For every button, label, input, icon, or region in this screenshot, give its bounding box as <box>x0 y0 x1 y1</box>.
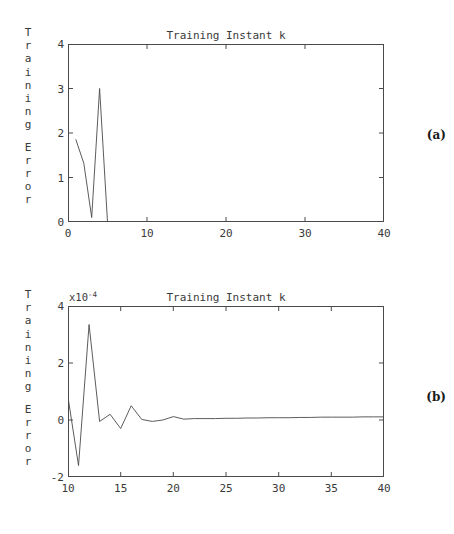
y-tick-label: 2 <box>57 357 64 370</box>
plot-area-a: Training Instant k 4 3 2 1 0 0 10 20 30 … <box>68 44 384 222</box>
ylabel-char: a <box>25 52 32 65</box>
ylabel-char: r <box>25 39 32 52</box>
chart-title-b: Training Instant k <box>68 291 384 304</box>
y-axis-label-b: T r a i n i n g E r r o r <box>18 288 38 469</box>
ylabel-char: i <box>25 66 32 79</box>
ylabel-char: g <box>25 118 32 131</box>
y-tick-label: 4 <box>57 300 64 313</box>
panel-label-a: (a) <box>427 128 446 142</box>
ylabel-char: r <box>25 429 32 442</box>
ylabel-char: g <box>25 380 32 393</box>
exponent-power: -4 <box>88 290 97 299</box>
data-series-line <box>68 325 384 466</box>
plot-svg-a <box>68 44 384 222</box>
x-tick-label: 10 <box>61 482 74 495</box>
ylabel-char: T <box>25 288 32 301</box>
ylabel-char: n <box>25 341 32 354</box>
ylabel-char: T <box>25 26 32 39</box>
x-tick-label: 0 <box>65 227 72 240</box>
ylabel-char: n <box>25 367 32 380</box>
chart-title-a: Training Instant k <box>68 29 384 42</box>
ylabel-char: i <box>25 328 32 341</box>
ylabel-char: E <box>25 403 32 416</box>
plot-area-b: Training Instant k x10-4 4 2 0 -2 10 15 … <box>68 306 384 477</box>
ylabel-char: n <box>25 79 32 92</box>
ylabel-char: r <box>25 154 32 167</box>
ylabel-char: r <box>25 193 32 206</box>
figure-b: T r a i n i n g E r r o r Training Insta… <box>0 262 454 534</box>
axis-box <box>69 45 384 222</box>
y-tick-label: 2 <box>57 127 64 140</box>
ylabel-char: a <box>25 314 32 327</box>
x-tick-marks <box>147 44 305 222</box>
ylabel-char: r <box>25 455 32 468</box>
x-tick-label: 30 <box>272 482 285 495</box>
figure-a: T r a i n i n g E r r o r Training Insta… <box>0 0 454 262</box>
x-tick-label: 20 <box>167 482 180 495</box>
ylabel-char: o <box>25 180 32 193</box>
y-tick-marks <box>68 363 384 420</box>
ylabel-char: r <box>25 301 32 314</box>
x-tick-label: 10 <box>140 227 153 240</box>
x-tick-label: 30 <box>298 227 311 240</box>
y-tick-label: 0 <box>57 216 64 229</box>
y-tick-label: 1 <box>57 171 64 184</box>
axis-box <box>69 307 384 477</box>
ylabel-char: r <box>25 416 32 429</box>
ylabel-char: E <box>25 141 32 154</box>
y-tick-label: 3 <box>57 82 64 95</box>
x-tick-label: 20 <box>219 227 232 240</box>
ylabel-char: i <box>25 354 32 367</box>
ylabel-char: n <box>25 105 32 118</box>
ylabel-char: i <box>25 92 32 105</box>
panel-label-b: (b) <box>426 390 446 404</box>
x-tick-label: 25 <box>219 482 232 495</box>
x-tick-label: 40 <box>377 482 390 495</box>
x-tick-label: 15 <box>114 482 127 495</box>
y-axis-label-a: T r a i n i n g E r r o r <box>18 26 38 207</box>
x-tick-label: 40 <box>377 227 390 240</box>
y-tick-label: 4 <box>57 38 64 51</box>
y-tick-marks <box>68 89 384 178</box>
data-series-line <box>76 89 384 223</box>
exponent-mantissa: x10 <box>69 291 88 303</box>
y-axis-exponent-label: x10-4 <box>69 291 97 303</box>
ylabel-char: o <box>25 442 32 455</box>
y-tick-label: 0 <box>57 414 64 427</box>
x-tick-marks <box>121 306 332 477</box>
plot-svg-b <box>68 306 384 477</box>
x-tick-label: 35 <box>325 482 338 495</box>
ylabel-char: r <box>25 167 32 180</box>
